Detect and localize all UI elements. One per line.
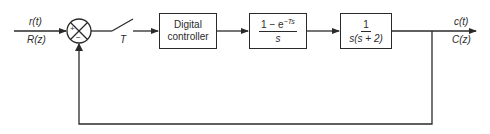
- zoh-numerator: 1 − e: [261, 19, 284, 30]
- output-z-label: C(z): [452, 34, 471, 45]
- feedback-arrowhead: [75, 43, 83, 51]
- diagram-lines: [0, 0, 490, 134]
- plant-block: 1 s(s + 2): [340, 13, 392, 49]
- sampler-label: T: [120, 34, 126, 45]
- block-diagram: r(t) R(z) + − T Digital controller 1 − e…: [0, 0, 490, 134]
- digital-controller-block: Digital controller: [159, 13, 217, 49]
- output-time-label: c(t): [454, 16, 468, 27]
- input-time-label: r(t): [29, 16, 42, 27]
- zoh-exponent: −Ts: [284, 18, 295, 25]
- input-z-label: R(z): [27, 34, 46, 45]
- plant-denominator: s(s + 2): [349, 32, 383, 44]
- zero-order-hold-block: 1 − e−Ts s: [249, 13, 307, 49]
- plant-numerator: 1: [361, 19, 371, 32]
- controller-line1: Digital: [174, 19, 202, 31]
- plant-transfer-function: 1 s(s + 2): [349, 19, 383, 44]
- zoh-transfer-function: 1 − e−Ts s: [259, 18, 297, 44]
- plus-sign: +: [70, 24, 75, 33]
- minus-sign: −: [76, 33, 81, 42]
- controller-line2: controller: [167, 31, 208, 43]
- sampler-switch: [112, 19, 133, 31]
- zoh-denominator: s: [275, 32, 280, 44]
